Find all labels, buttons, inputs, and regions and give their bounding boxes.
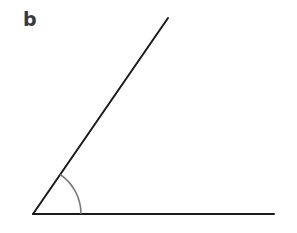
slanted-ray <box>33 18 168 214</box>
angle-diagram <box>0 0 297 233</box>
angle-arc <box>60 175 81 215</box>
